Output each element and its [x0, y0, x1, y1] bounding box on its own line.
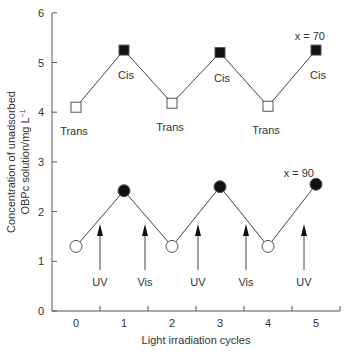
- open-circle-marker: [166, 240, 178, 252]
- series-label-x90: x = 90: [284, 167, 314, 179]
- series-label-x70: x = 70: [295, 30, 325, 42]
- open-square-marker: [71, 102, 81, 112]
- filled-square-marker: [119, 45, 129, 55]
- filled-circle-marker: [118, 185, 130, 197]
- arrow-label: Vis: [238, 276, 254, 288]
- chart: 0123456012345Light irradiation cyclesCon…: [0, 0, 346, 352]
- arrow-up-icon: [301, 224, 307, 236]
- arrow-up-icon: [97, 224, 103, 236]
- point-label: Cis: [310, 69, 326, 81]
- y-tick-label: 2: [38, 206, 44, 218]
- x-tick-label: 5: [313, 317, 319, 329]
- point-label: Trans: [156, 121, 184, 133]
- open-circle-marker: [262, 240, 274, 252]
- filled-circle-marker: [310, 178, 322, 190]
- arrow-up-icon: [243, 224, 249, 236]
- point-label: Trans: [252, 124, 280, 136]
- open-square-marker: [167, 98, 177, 108]
- arrow-up-icon: [142, 224, 148, 236]
- x-tick-label: 2: [169, 317, 175, 329]
- arrow-up-icon: [195, 224, 201, 236]
- y-tick-label: 1: [38, 255, 44, 267]
- x-tick-label: 4: [265, 317, 271, 329]
- point-label: Trans: [60, 125, 88, 137]
- series-line: [76, 184, 316, 246]
- y-tick-label: 5: [38, 57, 44, 69]
- arrow-label: Vis: [137, 276, 153, 288]
- y-tick-label: 0: [38, 305, 44, 317]
- arrow-label: UV: [92, 276, 108, 288]
- open-circle-marker: [70, 240, 82, 252]
- filled-circle-marker: [214, 181, 226, 193]
- y-axis-label-line1: Concentration of unadsorbed: [5, 91, 17, 233]
- y-tick-label: 6: [38, 7, 44, 19]
- y-tick-label: 4: [38, 106, 44, 118]
- x-axis-label: Light irradiation cycles: [142, 334, 251, 346]
- series-line: [76, 50, 316, 107]
- arrow-label: UV: [190, 276, 206, 288]
- x-tick-label: 3: [217, 317, 223, 329]
- y-axis-label-line2: OBPc solution/mg L−1: [19, 109, 31, 214]
- point-label: Cis: [118, 69, 134, 81]
- filled-square-marker: [311, 45, 321, 55]
- x-tick-label: 1: [121, 317, 127, 329]
- open-square-marker: [263, 101, 273, 111]
- point-label: Cis: [214, 72, 230, 84]
- arrow-label: UV: [296, 276, 312, 288]
- y-tick-label: 3: [38, 156, 44, 168]
- filled-square-marker: [215, 48, 225, 58]
- x-tick-label: 0: [73, 317, 79, 329]
